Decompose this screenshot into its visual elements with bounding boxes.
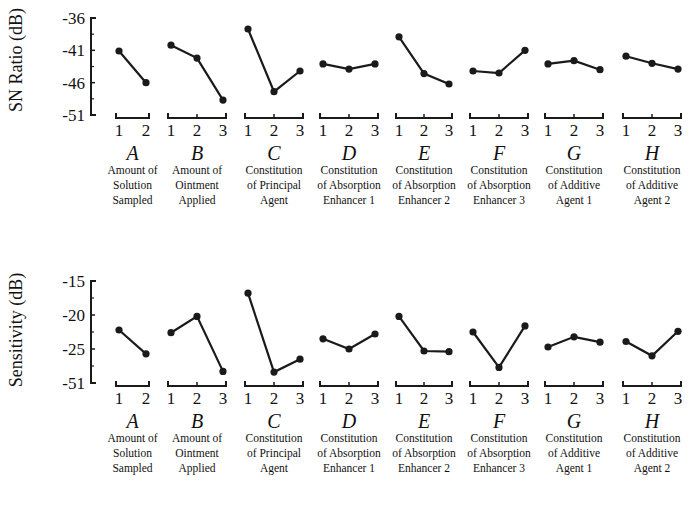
level-label: 3 [445, 121, 454, 140]
data-point [115, 326, 122, 333]
factor-effects-chart: SN Ratio (dB)-36-41-46-5112AAmount ofSol… [0, 0, 700, 512]
data-point [319, 335, 326, 342]
data-point [521, 322, 528, 329]
factor-letter: A [124, 410, 139, 432]
effect-line [399, 316, 449, 351]
y-tick-label: -15 [62, 272, 85, 291]
data-point [544, 343, 551, 350]
factor-description: of Absorption [392, 179, 456, 192]
factor-description: Sampled [112, 462, 152, 475]
factor-description: Constitution [321, 432, 378, 444]
factor-description: of Absorption [467, 447, 531, 460]
data-point [544, 60, 551, 67]
data-point [371, 330, 378, 337]
data-point [296, 356, 303, 363]
factor-group-c: 123CConstitutionof PrincipalAgent [244, 290, 305, 475]
factor-letter: C [267, 142, 281, 164]
factor-description: of Additive [626, 447, 678, 459]
data-point [469, 67, 476, 74]
factor-description: Constitution [246, 432, 303, 444]
level-label: 1 [167, 121, 176, 140]
factor-letter: F [492, 410, 506, 432]
factor-description: of Absorption [317, 179, 381, 192]
factor-description: Constitution [546, 432, 603, 444]
level-label: 1 [395, 121, 404, 140]
level-label: 3 [674, 121, 683, 140]
data-point [296, 67, 303, 74]
level-label: 1 [244, 389, 253, 408]
y-tick-label: -25 [62, 340, 85, 359]
level-label: 2 [570, 121, 579, 140]
level-label: 1 [469, 121, 478, 140]
factor-description: Constitution [471, 432, 528, 444]
factor-letter: D [341, 410, 357, 432]
data-point [395, 33, 402, 40]
effect-line [248, 29, 300, 92]
factor-description: Enhancer 3 [473, 462, 525, 474]
factor-group-d: 123DConstitutionof AbsorptionEnhancer 1 [317, 60, 381, 206]
factor-description: Applied [178, 462, 215, 475]
level-label: 1 [469, 389, 478, 408]
data-point [219, 368, 226, 375]
data-point [596, 66, 603, 73]
data-point [420, 70, 427, 77]
data-point [244, 290, 251, 297]
level-label: 2 [420, 121, 429, 140]
level-label: 3 [296, 121, 305, 140]
data-point [371, 60, 378, 67]
level-label: 2 [345, 389, 354, 408]
factor-description: Solution [113, 447, 152, 459]
y-tick-label: -36 [62, 9, 85, 28]
factor-description: Ointment [175, 179, 219, 191]
factor-letter: B [191, 142, 203, 164]
data-point [445, 80, 452, 87]
level-label: 2 [345, 121, 354, 140]
factor-description: Enhancer 2 [398, 194, 450, 206]
level-label: 3 [219, 121, 228, 140]
y-tick-label: -20 [62, 306, 85, 325]
factor-letter: G [567, 410, 582, 432]
data-point [270, 369, 277, 376]
factor-description: Amount of [107, 432, 157, 444]
y-tick-label: -46 [62, 74, 85, 93]
factor-description: Agent 2 [634, 462, 671, 475]
level-label: 3 [371, 121, 380, 140]
sensitivity-panel: Sensitivity (dB)-15-20-25-5112AAmount of… [6, 272, 682, 475]
factor-group-h: 123HConstitutionof AdditiveAgent 2 [622, 53, 683, 207]
level-label: 1 [167, 389, 176, 408]
factor-letter: C [267, 410, 281, 432]
factor-description: Amount of [107, 164, 157, 176]
factor-group-e: 123EConstitutionof AbsorptionEnhancer 2 [392, 33, 456, 206]
data-point [648, 352, 655, 359]
factor-letter: H [644, 410, 661, 432]
factor-description: Enhancer 3 [473, 194, 525, 206]
data-point [648, 60, 655, 67]
data-point [622, 338, 629, 345]
factor-description: of Absorption [317, 447, 381, 460]
data-point [495, 364, 502, 371]
level-label: 3 [445, 389, 454, 408]
data-point [193, 55, 200, 62]
factor-group-d: 123DConstitutionof AbsorptionEnhancer 1 [317, 330, 381, 474]
sn-ratio-panel: SN Ratio (dB)-36-41-46-5112AAmount ofSol… [6, 8, 682, 207]
factor-description: Sampled [112, 194, 152, 207]
data-point [167, 329, 174, 336]
factor-group-h: 123HConstitutionof AdditiveAgent 2 [622, 328, 683, 475]
factor-description: Agent [260, 194, 289, 207]
data-point [319, 60, 326, 67]
data-point [244, 25, 251, 32]
factor-group-a: 12AAmount ofSolutionSampled [107, 47, 157, 207]
factor-description: Enhancer 2 [398, 462, 450, 474]
level-label: 3 [674, 389, 683, 408]
data-point [622, 53, 629, 60]
y-axis-label: Sensitivity (dB) [6, 273, 27, 388]
factor-description: Agent 1 [556, 462, 593, 475]
factor-description: Constitution [471, 164, 528, 176]
data-point [495, 69, 502, 76]
factor-letter: E [417, 142, 430, 164]
factor-description: Constitution [396, 432, 453, 444]
level-label: 2 [648, 121, 657, 140]
factor-letter: F [492, 142, 506, 164]
level-label: 1 [544, 389, 553, 408]
factor-description: Amount of [172, 432, 222, 444]
